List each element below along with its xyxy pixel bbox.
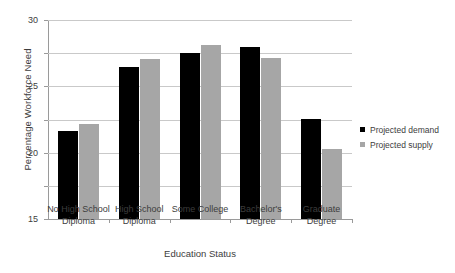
x-axis-title: Education Status xyxy=(0,248,400,259)
y-tick-mark: 25 xyxy=(44,53,48,54)
y-tick-mark: 30 xyxy=(44,20,48,21)
y-axis-title: Percentage Workforce Need xyxy=(22,10,33,210)
y-tick-mark: 10 xyxy=(44,153,48,154)
chart-legend: Projected demandProjected supply xyxy=(360,122,439,152)
x-tick-label: GraduateDegree xyxy=(285,204,358,227)
y-tick-label: 15 xyxy=(28,214,38,224)
legend-swatch-icon xyxy=(360,142,365,147)
y-tick-mark: 5 xyxy=(44,186,48,187)
plot-area: 051015202530 xyxy=(48,20,352,219)
bar xyxy=(261,58,281,219)
bar xyxy=(119,67,139,219)
y-tick-mark: 20 xyxy=(44,86,48,87)
x-tick-label-line: Degree xyxy=(285,216,358,228)
bar-chart: Percentage Workforce Need 051015202530 N… xyxy=(0,0,455,273)
bar xyxy=(180,53,200,219)
gridline xyxy=(48,20,352,21)
legend-label: Projected supply xyxy=(370,140,433,150)
legend-item: Projected demand xyxy=(360,122,439,137)
bar xyxy=(201,45,221,219)
legend-item: Projected supply xyxy=(360,137,439,152)
bar xyxy=(140,59,160,219)
x-tick-label-line: Graduate xyxy=(285,204,358,216)
bar xyxy=(240,47,260,219)
x-tick-label-line: Diploma xyxy=(103,216,176,228)
y-tick-mark: 15 xyxy=(44,120,48,121)
legend-label: Projected demand xyxy=(370,125,439,135)
y-tick-label: 30 xyxy=(28,15,38,25)
legend-swatch-icon xyxy=(360,127,365,132)
y-tick-label: 20 xyxy=(28,148,38,158)
y-tick-label: 25 xyxy=(28,81,38,91)
